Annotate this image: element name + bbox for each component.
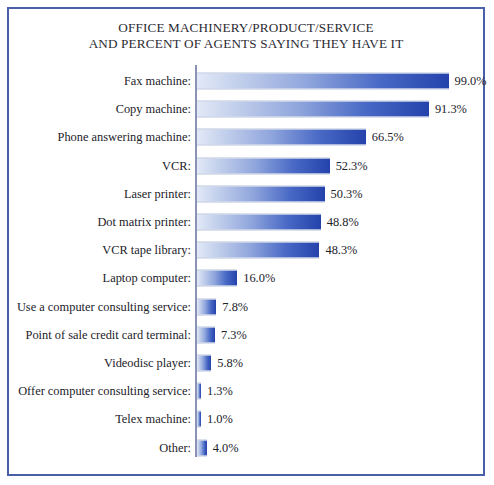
bar (197, 185, 325, 202)
bar-row: Phone answering machine:66.5% (9, 123, 483, 151)
bar (197, 214, 321, 231)
bar-category-label: Telex machine: (9, 412, 191, 426)
bar-value-label: 16.0% (243, 271, 275, 285)
bar-value-label: 91.3% (435, 102, 467, 116)
bar-row: Fax machine:99.0% (9, 67, 483, 95)
bar (197, 411, 202, 428)
bar (197, 73, 449, 90)
bar (197, 298, 217, 315)
bar-row: Other:4.0% (9, 434, 483, 462)
bar-category-label: Use a computer consulting service: (9, 300, 191, 314)
bar-value-label: 1.0% (207, 412, 233, 426)
bar-category-label: Phone answering machine: (9, 130, 191, 144)
bar-value-label: 48.3% (325, 243, 357, 257)
bar (197, 129, 366, 146)
bar (197, 355, 212, 372)
bar-category-label: Point of sale credit card terminal: (9, 328, 191, 342)
bar-category-label: Fax machine: (9, 74, 191, 88)
bar-value-label: 99.0% (455, 74, 487, 88)
bar-row: Offer computer consulting service:1.3% (9, 377, 483, 405)
bar-category-label: VCR: (9, 159, 191, 173)
bar (197, 439, 207, 456)
chart-frame: OFFICE MACHINERY/PRODUCT/SERVICE AND PER… (7, 7, 485, 476)
bar (197, 270, 238, 287)
bar-row: VCR tape library:48.3% (9, 236, 483, 264)
bar-row: Point of sale credit card terminal:7.3% (9, 321, 483, 349)
chart-title-line-2: AND PERCENT OF AGENTS SAYING THEY HAVE I… (9, 36, 483, 52)
bar-row: Videodisc player:5.8% (9, 349, 483, 377)
bar-value-label: 50.3% (331, 187, 363, 201)
bar (197, 157, 330, 174)
bar-row: Use a computer consulting service:7.8% (9, 293, 483, 321)
bar-category-label: Videodisc player: (9, 356, 191, 370)
bar (197, 101, 429, 118)
bar-row: VCR:52.3% (9, 152, 483, 180)
bar-row: Telex machine:1.0% (9, 405, 483, 433)
bar-category-label: VCR tape library: (9, 243, 191, 257)
bar (197, 383, 202, 400)
bar-value-label: 4.0% (213, 441, 239, 455)
bar-category-label: Laptop computer: (9, 271, 191, 285)
bar-category-label: Copy machine: (9, 102, 191, 116)
bar-value-label: 66.5% (372, 130, 404, 144)
bar (197, 326, 216, 343)
bar-row: Laptop computer:16.0% (9, 264, 483, 292)
bar-row: Laser printer:50.3% (9, 180, 483, 208)
chart-title: OFFICE MACHINERY/PRODUCT/SERVICE AND PER… (9, 20, 483, 51)
bar-value-label: 7.8% (222, 300, 248, 314)
bar-category-label: Dot matrix printer: (9, 215, 191, 229)
chart-title-line-1: OFFICE MACHINERY/PRODUCT/SERVICE (9, 20, 483, 36)
bar-category-label: Other: (9, 441, 191, 455)
bar-value-label: 7.3% (221, 328, 247, 342)
bar-value-label: 1.3% (207, 384, 233, 398)
bar (197, 242, 320, 259)
bar-category-label: Offer computer consulting service: (9, 384, 191, 398)
bar-value-label: 52.3% (336, 159, 368, 173)
bar-category-label: Laser printer: (9, 187, 191, 201)
bar-chart-plot-area: Fax machine:99.0%Copy machine:91.3%Phone… (9, 65, 483, 461)
bar-row: Copy machine:91.3% (9, 95, 483, 123)
bar-value-label: 5.8% (217, 356, 243, 370)
bar-value-label: 48.8% (327, 215, 359, 229)
bar-row: Dot matrix printer:48.8% (9, 208, 483, 236)
